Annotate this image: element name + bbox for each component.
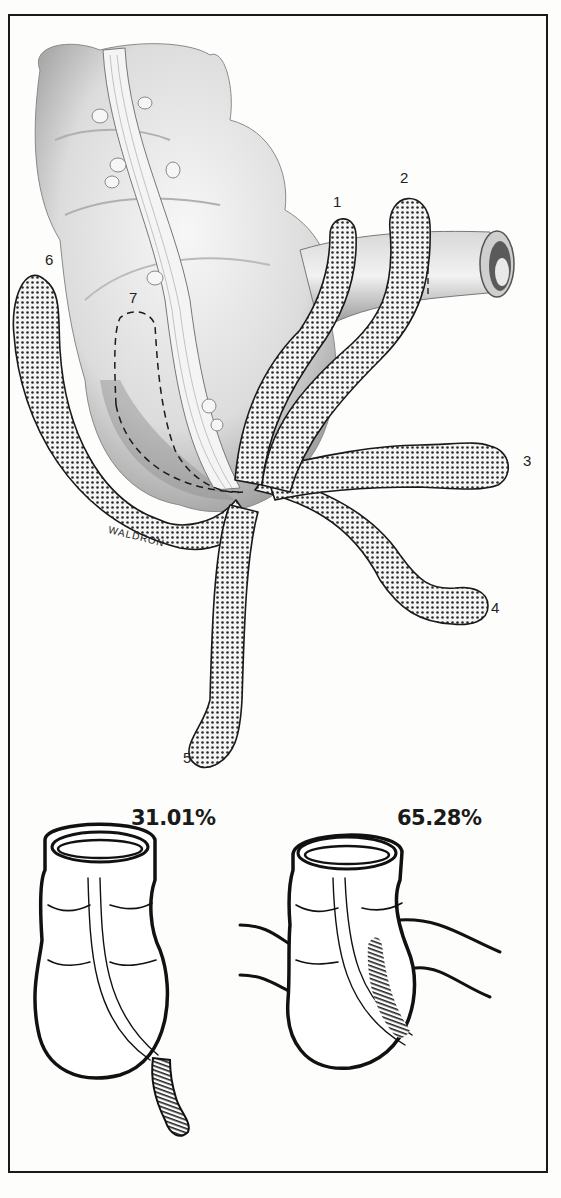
label-position-7: 7 [129, 290, 137, 305]
label-position-5: 5 [183, 750, 191, 765]
label-position-6: 6 [45, 252, 53, 267]
cecum-sketch-left [35, 824, 310, 1136]
percentage-right: 65.28% [397, 808, 481, 829]
label-position-3: 3 [523, 453, 531, 468]
percentage-left: 31.01% [131, 808, 215, 829]
label-position-2: 2 [400, 170, 408, 185]
cecum-sketch-right [288, 835, 500, 1068]
label-position-4: 4 [491, 600, 499, 615]
anatomy-illustration [0, 0, 561, 1198]
label-position-1: 1 [333, 194, 341, 209]
